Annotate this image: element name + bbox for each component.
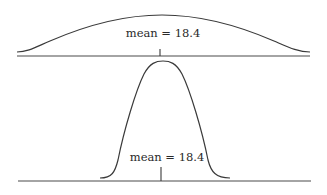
narrow-distribution-panel: mean = 18.4 [18, 61, 311, 181]
distributions-diagram: mean = 18.4 mean = 18.4 [0, 0, 327, 195]
wide-distribution-panel: mean = 18.4 [17, 15, 310, 56]
top-mean-label: mean = 18.4 [126, 26, 201, 40]
bottom-mean-label: mean = 18.4 [130, 150, 205, 164]
